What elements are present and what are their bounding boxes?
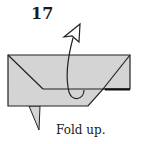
- paper-back-layer: [8, 55, 130, 106]
- fold-arrow-head-icon: [64, 24, 80, 42]
- instruction-caption: Fold up.: [56, 124, 105, 137]
- bottom-flap: [29, 106, 40, 130]
